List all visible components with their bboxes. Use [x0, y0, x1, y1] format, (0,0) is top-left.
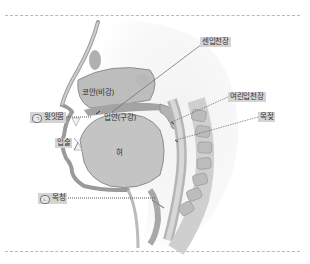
label-hard-palate: 센입천장: [200, 37, 231, 47]
upper-gum-text: 윗잇몸: [44, 112, 64, 121]
label-uvula: 목젖: [258, 112, 275, 122]
vocal-cords-text: 목청: [52, 193, 65, 202]
marker-giyeok-icon: ㄱ: [32, 114, 42, 123]
label-tongue: 혀: [116, 148, 123, 158]
marker-nieun-icon: ㄴ: [40, 195, 50, 204]
label-soft-palate: 여린입천장: [228, 92, 266, 102]
head-sagittal-section-figure: [0, 0, 310, 264]
label-nasal-cavity: 코안(비강): [82, 88, 114, 98]
label-oral-cavity: 입안(구강): [104, 113, 136, 123]
label-lips: 입술: [55, 138, 72, 148]
label-upper-gum: ㄱ윗잇몸: [30, 112, 66, 123]
label-vocal-cords: ㄴ목청: [38, 193, 67, 204]
